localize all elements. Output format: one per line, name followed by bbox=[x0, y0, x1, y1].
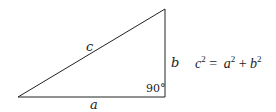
formula-c-exponent: 2 bbox=[201, 54, 206, 64]
formula-a-exponent: 2 bbox=[231, 54, 236, 64]
horizontal-leg-label: a bbox=[90, 98, 98, 111]
formula-a: a bbox=[224, 56, 231, 71]
formula-b: b bbox=[250, 56, 257, 71]
pythagorean-diagram: c b a 90° c2 = a2 + b2 bbox=[0, 0, 276, 112]
right-angle-label: 90° bbox=[146, 83, 166, 94]
vertical-leg-label: b bbox=[171, 56, 179, 69]
formula-equals: = bbox=[209, 56, 217, 71]
pythagorean-formula: c2 = a2 + b2 bbox=[195, 56, 262, 72]
formula-plus: + bbox=[239, 56, 247, 71]
hypotenuse-label: c bbox=[86, 40, 93, 53]
formula-b-exponent: 2 bbox=[257, 54, 262, 64]
